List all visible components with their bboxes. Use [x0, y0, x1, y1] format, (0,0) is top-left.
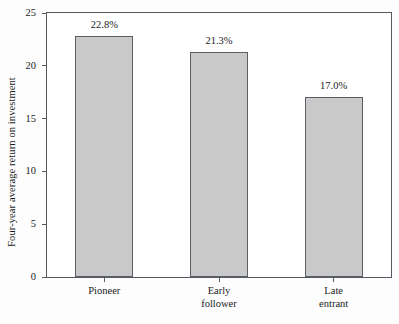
y-axis-tick	[42, 277, 47, 278]
y-axis-tick-label: 25	[0, 8, 36, 19]
x-axis-category-label-line: entrant	[279, 297, 389, 310]
y-axis-tick	[42, 13, 47, 14]
bar-chart-figure: Four-year average return on investment 0…	[0, 0, 399, 324]
x-axis-category-label-line: Pioneer	[49, 284, 159, 297]
y-axis-tick	[42, 65, 47, 66]
y-axis-tick	[42, 118, 47, 119]
bar-value-label: 22.8%	[64, 20, 144, 31]
bar-value-label: 21.3%	[179, 36, 259, 47]
y-axis-tick	[42, 224, 47, 225]
bar[interactable]	[190, 52, 248, 277]
bar-value-label: 17.0%	[294, 81, 374, 92]
x-axis-tick	[333, 277, 334, 282]
y-axis-tick-label: 15	[0, 114, 36, 125]
x-axis-category-label-line: Late	[279, 284, 389, 297]
y-axis-tick-label: 5	[0, 219, 36, 230]
x-axis-category-label: Pioneer	[49, 284, 159, 297]
bar[interactable]	[305, 97, 363, 277]
x-axis-category-label-line: Early	[164, 284, 274, 297]
x-axis-category-label: Lateentrant	[279, 284, 389, 310]
plot-area	[46, 12, 392, 278]
x-axis-tick	[219, 277, 220, 282]
x-axis-category-label: Earlyfollower	[164, 284, 274, 310]
y-axis-tick-label: 20	[0, 61, 36, 72]
plot-inner	[47, 13, 391, 277]
y-axis-tick	[42, 171, 47, 172]
x-axis-category-label-line: follower	[164, 297, 274, 310]
x-axis-tick	[104, 277, 105, 282]
bar[interactable]	[75, 36, 133, 277]
y-axis-tick-label: 0	[0, 272, 36, 283]
y-axis-tick-label: 10	[0, 166, 36, 177]
